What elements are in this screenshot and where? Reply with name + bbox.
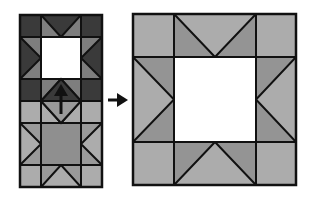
enlarged-star-block (133, 14, 296, 185)
quilt-diagram (0, 0, 310, 198)
right-arrow-icon (108, 93, 128, 107)
